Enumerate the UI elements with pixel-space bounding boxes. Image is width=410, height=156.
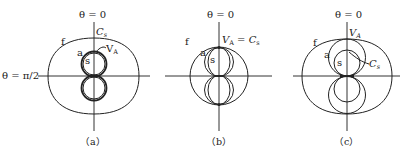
label-va: VA [105,43,118,56]
point-bottom [217,103,220,106]
label-s: s [210,54,215,65]
label-a: a [77,47,83,58]
label-va: VA [349,27,361,40]
panel-c: θ = 0 f a s VA Cs （c） [293,9,400,147]
caption-a: （a） [80,136,106,147]
caption-c: （c） [334,136,359,147]
polar-diagram-figure: θ = 0 θ = π/2 f a s Cs VA （a） θ = 0 f a … [0,0,410,156]
point-va-cs-top [217,46,220,49]
panel-b: θ = 0 f a s VA = Cs （b） [165,9,272,147]
panel-a: θ = 0 θ = π/2 f a s Cs VA （a） [2,9,150,147]
axis-top-label: θ = 0 [79,9,106,20]
axis-top-label: θ = 0 [207,9,234,20]
label-f: f [185,36,190,47]
label-a: a [200,47,206,58]
label-va-equals-cs: VA = Cs [222,34,260,47]
label-s: s [85,55,90,66]
label-a: a [324,49,330,60]
label-f: f [61,36,66,47]
label-cs: Cs [369,58,381,71]
axis-top-label: θ = 0 [335,9,362,20]
label-cs: Cs [96,26,108,39]
caption-b: （b） [206,136,232,147]
axis-side-label: θ = π/2 [2,70,39,81]
label-s: s [337,57,342,68]
